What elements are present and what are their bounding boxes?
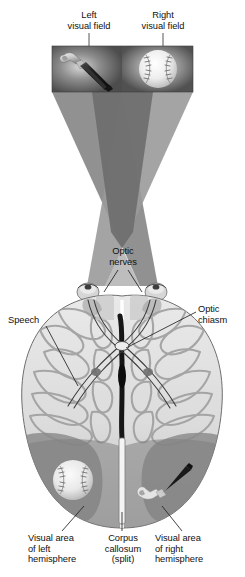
label-right-visual-field: Right visual field (134, 10, 192, 31)
diagram-canvas (0, 0, 245, 577)
label-left-visual-field: Left visual field (60, 10, 118, 31)
figure-root: Left visual field Right visual field Opt… (0, 0, 245, 577)
label-visual-area-left: Visual area of left hemisphere (28, 533, 90, 565)
stimulus-panel (52, 46, 193, 92)
label-speech: Speech (8, 315, 52, 326)
label-optic-chiasm: Optic chiasm (198, 304, 244, 325)
optic-chiasm-node (115, 342, 129, 351)
label-visual-area-right: Visual area of right hemisphere (155, 533, 217, 565)
right-visual-field-panel (122, 46, 193, 92)
baseball-percept-left-hemisphere (53, 460, 93, 500)
left-visual-field-panel (52, 46, 122, 92)
brain (22, 293, 223, 528)
label-corpus-callosum: Corpus callosum (split) (98, 533, 148, 565)
label-optic-nerves: Optic nerves (96, 246, 150, 267)
baseball-icon (139, 50, 177, 88)
